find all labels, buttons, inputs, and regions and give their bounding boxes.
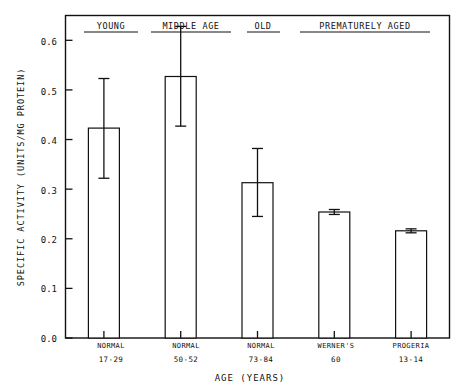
category-age-1: 50-52	[174, 355, 199, 364]
y-tick-label-3: 0.3	[41, 186, 57, 196]
group-header-old: OLD	[254, 21, 271, 31]
category-name-3: WERNER'S	[318, 342, 355, 350]
y-tick-label-1: 0.1	[41, 284, 57, 294]
bar-chart-figure: 0.0 0.1 0.2 0.3 0.4 0.5 0.6 SPECIFIC ACT…	[0, 0, 467, 388]
y-tick-label-0: 0.0	[41, 334, 57, 344]
category-name-1: NORMAL	[172, 342, 200, 350]
category-age-4: 13-14	[399, 355, 424, 364]
category-name-4: PROGERIA	[393, 342, 430, 350]
y-tick-label-4: 0.4	[41, 136, 57, 146]
y-tick-label-2: 0.2	[41, 235, 57, 245]
chart-canvas: 0.0 0.1 0.2 0.3 0.4 0.5 0.6 SPECIFIC ACT…	[0, 0, 467, 388]
y-tick-label-5: 0.5	[41, 87, 57, 97]
y-axis-title: SPECIFIC ACTIVITY (UNITS/MG PROTEIN)	[16, 68, 26, 287]
group-header-middle-age: MIDDLE AGE	[162, 21, 219, 31]
category-name-0: NORMAL	[97, 342, 125, 350]
bar-4	[396, 231, 427, 338]
category-age-2: 73-84	[249, 355, 274, 364]
category-age-3: 60	[331, 355, 341, 364]
group-header-prematurely-aged: PREMATURELY AGED	[319, 21, 410, 31]
category-name-2: NORMAL	[247, 342, 275, 350]
bar-3	[319, 212, 350, 338]
x-axis-title: AGE (YEARS)	[215, 373, 286, 383]
category-age-0: 17-29	[99, 355, 124, 364]
y-tick-label-6: 0.6	[41, 37, 57, 47]
group-header-young: YOUNG	[97, 21, 126, 31]
